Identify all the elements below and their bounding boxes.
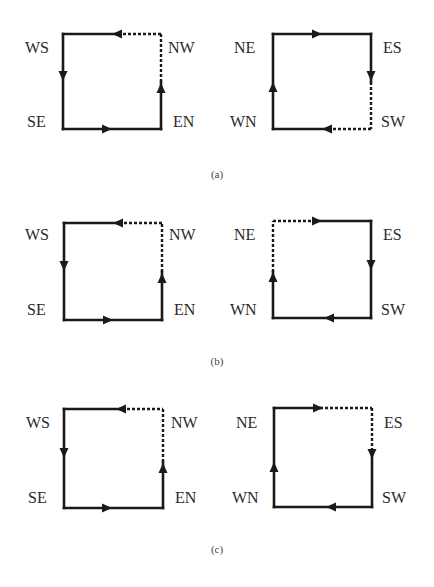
node-label-es: ES: [383, 226, 402, 243]
arrow-right-icon: [312, 30, 322, 39]
panel-b: WS NW SE EN NE ES WN SW (b): [25, 217, 406, 369]
node-label-ws: WS: [25, 39, 49, 56]
arrow-right-icon: [103, 316, 113, 325]
node-label-nw: NW: [169, 226, 197, 243]
panel-b-left-loop: WS NW SE EN: [25, 219, 197, 325]
panel-a: WS NW SE EN NE ES WN SW (a): [25, 30, 406, 182]
node-label-ne: NE: [234, 39, 255, 56]
node-label-ne: NE: [236, 414, 257, 431]
arrow-left-icon: [324, 314, 334, 323]
arrow-up-icon: [269, 82, 278, 92]
node-label-se: SE: [27, 113, 46, 130]
node-label-se: SE: [28, 489, 47, 506]
node-label-wn: WN: [230, 301, 257, 318]
node-label-ws: WS: [25, 226, 49, 243]
node-label-nw: NW: [168, 39, 196, 56]
arrow-up-icon: [157, 83, 166, 93]
arrow-right-icon: [313, 404, 323, 413]
arrow-left-icon: [112, 30, 122, 39]
node-label-sw: SW: [381, 113, 406, 130]
arrow-up-icon: [159, 463, 168, 473]
node-label-en: EN: [173, 113, 195, 130]
arrow-down-icon: [59, 71, 68, 81]
node-label-en: EN: [174, 301, 196, 318]
arrow-down-icon: [60, 261, 69, 271]
panel-c-right-loop: NE ES WN SW: [232, 404, 407, 512]
arrow-right-icon: [312, 217, 322, 226]
arrow-up-icon: [270, 462, 279, 472]
arrow-left-icon: [322, 125, 332, 134]
panel-c: WS NW SE EN NE ES WN SW (c): [26, 404, 407, 557]
node-label-es: ES: [384, 414, 403, 431]
arrow-down-icon: [60, 448, 69, 458]
node-label-wn: WN: [232, 489, 259, 506]
arrow-down-icon: [367, 260, 376, 270]
panel-b-right-loop: NE ES WN SW: [230, 217, 406, 323]
node-label-sw: SW: [382, 489, 407, 506]
node-label-ws: WS: [26, 414, 50, 431]
arrow-right-icon: [102, 125, 112, 134]
node-label-es: ES: [383, 39, 402, 56]
arrow-right-icon: [102, 504, 112, 513]
node-label-ne: NE: [234, 226, 255, 243]
panel-a-right-loop: NE ES WN SW: [230, 30, 406, 134]
panel-caption: (c): [211, 543, 224, 556]
arrow-left-icon: [116, 405, 126, 414]
arrow-down-icon: [368, 449, 377, 459]
node-label-wn: WN: [230, 113, 257, 130]
panel-c-left-loop: WS NW SE EN: [26, 405, 199, 513]
arrow-up-icon: [269, 272, 278, 282]
turn-loop-figure: WS NW SE EN NE ES WN SW (a): [0, 0, 434, 587]
panel-caption: (b): [211, 355, 224, 368]
node-label-sw: SW: [381, 301, 406, 318]
panel-a-left-loop: WS NW SE EN: [25, 30, 196, 134]
node-label-nw: NW: [171, 414, 199, 431]
node-label-se: SE: [27, 301, 46, 318]
arrow-down-icon: [367, 71, 376, 81]
arrow-up-icon: [158, 273, 167, 283]
node-label-en: EN: [175, 489, 197, 506]
arrow-left-icon: [113, 219, 123, 228]
panel-caption: (a): [211, 168, 224, 181]
arrow-left-icon: [326, 503, 336, 512]
